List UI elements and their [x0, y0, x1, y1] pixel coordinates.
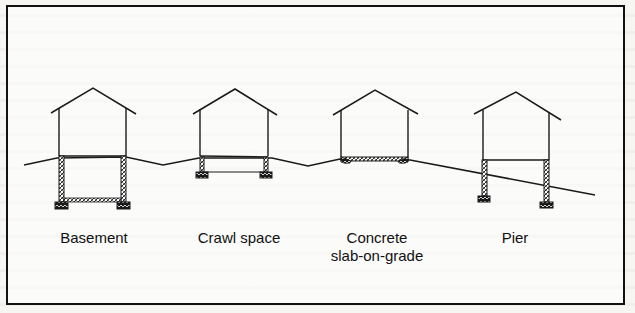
foundation-diagram — [0, 0, 635, 313]
pier-post-left — [482, 160, 487, 196]
pier-footing-left — [478, 196, 490, 202]
crawl-footing-right — [260, 172, 272, 178]
basement-footing-right — [117, 202, 130, 209]
pier-post-right — [544, 160, 549, 202]
crawl-footing-left — [196, 172, 208, 178]
basement-floor-slab — [64, 198, 121, 202]
pier-footing-right — [540, 202, 553, 208]
house-slab-on-grade — [333, 90, 418, 163]
basement-wall-left — [59, 156, 64, 202]
label-pier: Pier — [490, 229, 540, 247]
crawl-wall-right — [264, 157, 268, 172]
roof-basement — [51, 88, 136, 114]
roof-slab — [333, 90, 418, 115]
crawl-wall-left — [200, 157, 204, 172]
roof-crawl-space — [193, 89, 277, 115]
label-slab-line1: Concrete — [324, 229, 430, 247]
label-basement: Basement — [52, 229, 136, 247]
ground-line — [24, 157, 595, 195]
house-basement — [51, 88, 136, 209]
label-crawl-space: Crawl space — [191, 229, 287, 247]
basement-footing-left — [55, 202, 68, 209]
roof-pier — [474, 92, 561, 120]
label-slab-line2: slab-on-grade — [324, 247, 430, 265]
concrete-slab — [341, 157, 408, 161]
house-pier — [474, 92, 561, 208]
basement-wall-right — [121, 156, 126, 202]
house-crawl-space — [193, 89, 277, 178]
